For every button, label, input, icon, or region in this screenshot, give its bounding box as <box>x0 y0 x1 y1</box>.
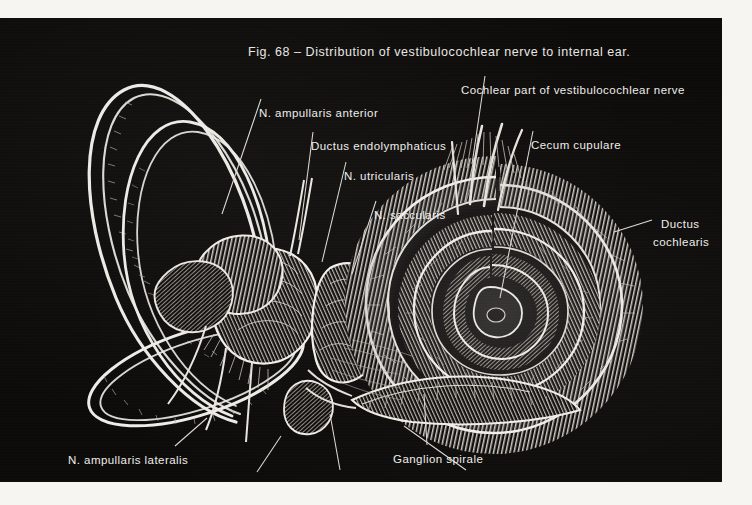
label-n-ampullaris-posterior: N. ampullaris posterior <box>148 479 273 482</box>
label-n-ampullaris-anterior: N. ampullaris anterior <box>259 106 378 121</box>
figure-caption: Fig. 68 – Distribution of vestibulocochl… <box>248 45 630 59</box>
label-ductus-cochlearis-line-2: cochlearis <box>653 235 709 250</box>
illustration-plate: Fig. 68 – Distribution of vestibulocochl… <box>0 18 722 482</box>
label-cecum-vestibulare: Cecum vestibulare <box>300 479 403 482</box>
paper-margin-bottom <box>0 482 752 505</box>
label-n-ampullaris-lateralis: N. ampullaris lateralis <box>68 453 188 468</box>
ductus-endolymphaticus-structure <box>290 178 312 256</box>
leader-n-ampullaris-posterior <box>257 436 281 472</box>
label-cecum-cupulare: Cecum cupulare <box>531 138 621 153</box>
label-n-saccularis: N. saccularis <box>374 208 446 223</box>
leader-cecum-vestibulare <box>330 414 340 470</box>
label-ductus-endolymphaticus: Ductus endolymphaticus <box>311 139 446 154</box>
label-n-utricularis: N. utricularis <box>344 169 414 184</box>
label-ductus-cochlearis-line-1: Ductus <box>661 217 700 232</box>
vestibule-left-lobe <box>154 261 232 332</box>
page: Fig. 68 – Distribution of vestibulocochl… <box>0 0 752 505</box>
label-ganglion-spirale: Ganglion spirale <box>393 452 483 467</box>
paper-margin-top <box>0 0 752 18</box>
label-ramus-vestibulocochlearis: Ramus vestibulocochlearis (joins vestibu… <box>440 479 722 482</box>
leader-n-utricularis <box>322 162 346 262</box>
paper-margin-right <box>722 0 752 505</box>
label-cochlear-part-of-vestibulocochlear-nerve: Cochlear part of vestibulocochlear nerve <box>461 83 685 98</box>
